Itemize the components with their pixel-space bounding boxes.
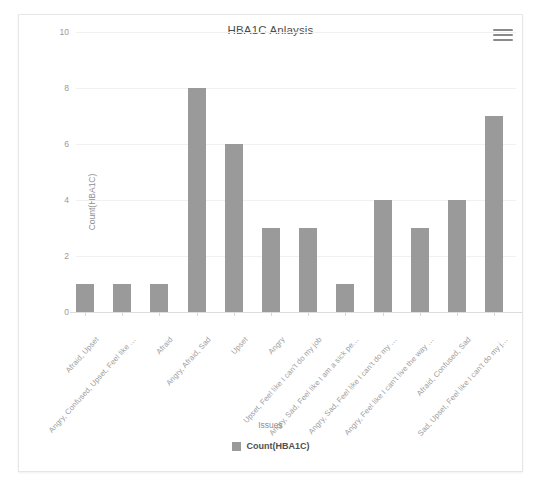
legend-label-count-hba1c: Count(HBA1C) — [247, 441, 310, 451]
y-axis-tick-label: 8 — [64, 83, 69, 93]
gridline — [76, 32, 516, 33]
bar[interactable] — [188, 88, 206, 312]
x-axis-tick-label: Angry — [266, 335, 286, 356]
bar[interactable] — [225, 144, 243, 312]
x-axis-tickmark — [345, 312, 346, 316]
chart-card: HBA1C Anlaysis Count(HBA1C) 0246810 Afra… — [18, 14, 523, 472]
legend-swatch-count-hba1c — [232, 442, 241, 451]
x-axis-tickmark — [234, 312, 235, 316]
x-axis-tickmark — [122, 312, 123, 316]
x-axis-tickmark — [197, 312, 198, 316]
gridline — [76, 88, 516, 89]
x-axis-tickmark — [457, 312, 458, 316]
x-axis-tick-label: Upset, Feel like I can't do my job — [242, 335, 324, 425]
y-axis-tick-label: 10 — [60, 27, 69, 37]
legend[interactable]: Count(HBA1C) — [19, 441, 522, 451]
bar[interactable] — [336, 284, 354, 312]
bar[interactable] — [150, 284, 168, 312]
y-axis-tick-label: 4 — [64, 195, 69, 205]
bar[interactable] — [374, 200, 392, 312]
x-axis-tickmark — [420, 312, 421, 316]
y-axis-label: Count(HBA1C) — [87, 174, 97, 231]
x-axis-tick-label: Afraid, Upset — [64, 335, 101, 375]
x-axis-tick-label: Upset — [229, 335, 249, 356]
bar[interactable] — [113, 284, 131, 312]
gridline — [76, 144, 516, 145]
x-axis-tickmark — [494, 312, 495, 316]
x-axis-tickmark — [159, 312, 160, 316]
y-axis-tick-label: 2 — [64, 251, 69, 261]
bar[interactable] — [485, 116, 503, 312]
x-axis-tickmark — [383, 312, 384, 316]
bar[interactable] — [262, 228, 280, 312]
x-axis-tickmark — [308, 312, 309, 316]
bar[interactable] — [411, 228, 429, 312]
menu-line-1 — [493, 29, 513, 31]
bar[interactable] — [76, 284, 94, 312]
bar[interactable] — [448, 200, 466, 312]
x-axis-tickmark — [85, 312, 86, 316]
x-axis-tickmark — [271, 312, 272, 316]
y-axis-tick-label: 0 — [64, 307, 69, 317]
x-axis-tick-label: Afraid — [155, 335, 175, 356]
bar[interactable] — [299, 228, 317, 312]
x-axis-label: Issues — [19, 420, 522, 430]
plot-area: Count(HBA1C) 0246810 Afraid, UpsetAngry,… — [76, 32, 524, 312]
y-axis-tick-label: 6 — [64, 139, 69, 149]
x-axis-line — [70, 312, 522, 313]
